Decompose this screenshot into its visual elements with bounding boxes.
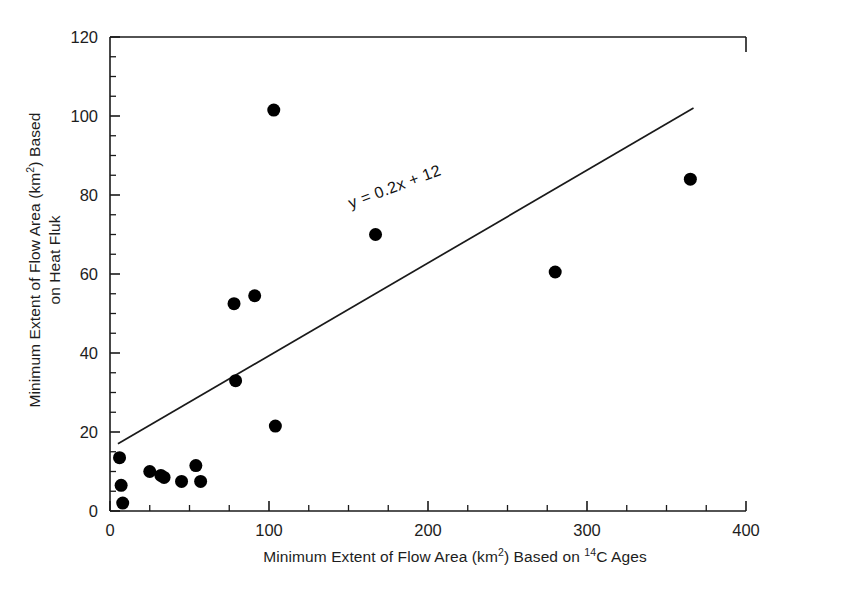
trendline-path [118,108,694,444]
data-point [143,465,156,478]
data-point [158,471,171,484]
data-point [228,297,241,310]
trendline [118,108,694,444]
data-point [369,228,382,241]
data-points [113,104,697,510]
data-point [116,497,129,510]
data-point [194,475,207,488]
data-point [269,420,282,433]
data-point [175,475,188,488]
data-point [549,266,562,279]
data-point [189,459,202,472]
data-point [684,173,697,186]
data-point [229,374,242,387]
plot-canvas [0,0,846,602]
data-point [115,479,128,492]
data-point [113,451,126,464]
data-point [248,289,261,302]
axes-spines [110,37,746,511]
axis-ticks [110,37,746,511]
data-point [267,104,280,117]
scatter-plot-figure: Minimum Extent of Flow Area (km2) Based … [0,0,846,602]
